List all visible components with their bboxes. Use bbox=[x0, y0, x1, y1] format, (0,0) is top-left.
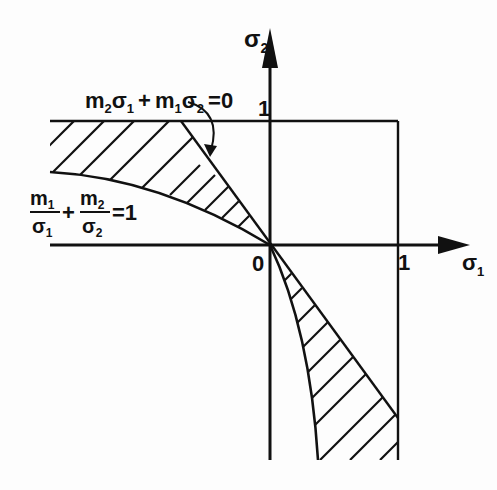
unit-bounds bbox=[50, 121, 398, 460]
svg-text:σ1: σ1 bbox=[32, 215, 53, 240]
origin-label: 0 bbox=[252, 251, 264, 276]
svg-text:+: + bbox=[62, 200, 75, 225]
x-tick-1: 1 bbox=[398, 250, 410, 275]
svg-text:=1: =1 bbox=[112, 200, 137, 225]
diagram-canvas: σ2 σ1 0 1 1 m2σ1+m1σ2=0 m1 σ1 + m2 σ2 =1 bbox=[0, 0, 497, 490]
zero-line bbox=[181, 121, 398, 418]
sigma2-axis-label: σ2 bbox=[244, 25, 268, 56]
y-tick-1: 1 bbox=[258, 96, 270, 121]
svg-text:m2: m2 bbox=[80, 187, 105, 212]
svg-text:m1: m1 bbox=[30, 187, 55, 212]
sigma1-axis-label: σ1 bbox=[462, 250, 484, 279]
svg-text:σ2: σ2 bbox=[82, 215, 103, 240]
curve-equation: m1 σ1 + m2 σ2 =1 bbox=[30, 187, 137, 240]
zero-line-equation: m2σ1+m1σ2=0 bbox=[85, 88, 233, 116]
